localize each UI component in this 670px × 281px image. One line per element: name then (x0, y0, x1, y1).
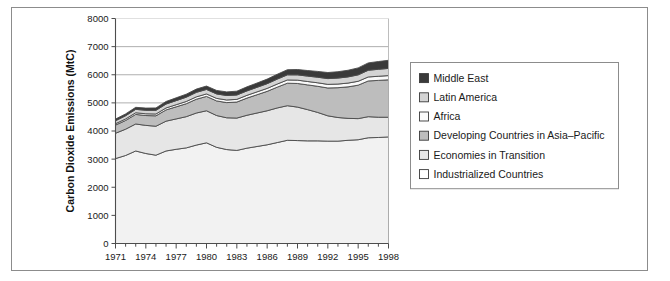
legend-label[interactable]: Africa (434, 110, 461, 122)
legend-swatch[interactable] (420, 74, 429, 83)
figure-canvas: 010002000300040005000600070008000 197119… (0, 0, 670, 281)
y-tick-label: 2000 (87, 182, 108, 193)
y-axis-ticks: 010002000300040005000600070008000 (87, 13, 115, 249)
legend-swatch[interactable] (420, 170, 429, 179)
x-axis-ticks: 1971197419771980198319861989199219951998 (105, 244, 399, 262)
y-tick-label: 6000 (87, 69, 108, 80)
y-tick-label: 4000 (87, 125, 108, 136)
legend-swatch[interactable] (420, 112, 429, 121)
y-tick-label: 0 (103, 238, 108, 249)
x-tick-label: 1983 (226, 251, 247, 262)
legend-label[interactable]: Developing Countries in Asia–Pacific (434, 129, 605, 141)
x-tick-label: 1989 (287, 251, 308, 262)
y-tick-label: 5000 (87, 97, 108, 108)
legend-swatch[interactable] (420, 150, 429, 159)
legend: Middle EastLatin AmericaAfricaDeveloping… (411, 63, 619, 189)
legend-label[interactable]: Middle East (434, 72, 489, 84)
y-tick-label: 7000 (87, 41, 108, 52)
legend-label[interactable]: Latin America (434, 91, 498, 103)
stacked-area-chart: 010002000300040005000600070008000 197119… (0, 0, 670, 281)
x-tick-label: 1977 (166, 251, 187, 262)
legend-label[interactable]: Economies in Transition (434, 149, 546, 161)
x-tick-label: 1980 (196, 251, 217, 262)
y-tick-label: 1000 (87, 210, 108, 221)
x-tick-label: 1971 (105, 251, 126, 262)
y-tick-label: 8000 (87, 13, 108, 24)
y-axis-label: Carbon Dioxide Emissions (MtC) (64, 50, 76, 213)
x-tick-label: 1995 (348, 251, 369, 262)
x-tick-label: 1998 (378, 251, 399, 262)
legend-label[interactable]: Industrialized Countries (434, 168, 544, 180)
legend-swatch[interactable] (420, 131, 429, 140)
y-axis-title: Carbon Dioxide Emissions (MtC) (64, 50, 76, 213)
legend-swatch[interactable] (420, 93, 429, 102)
x-tick-label: 1974 (135, 251, 156, 262)
x-tick-label: 1986 (257, 251, 278, 262)
x-tick-label: 1992 (317, 251, 338, 262)
y-tick-label: 3000 (87, 154, 108, 165)
